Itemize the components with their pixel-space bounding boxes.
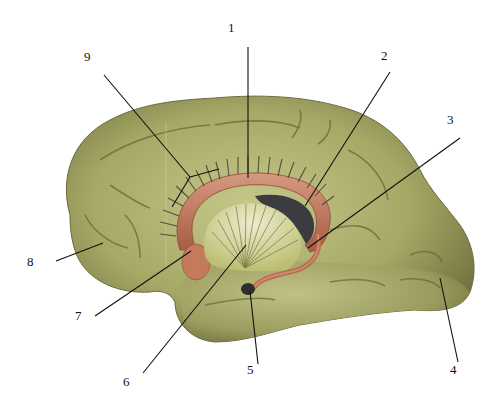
- label-2: 2: [381, 49, 388, 62]
- label-1: 1: [228, 21, 235, 34]
- label-9: 9: [84, 50, 91, 63]
- label-8: 8: [27, 255, 34, 268]
- label-6: 6: [123, 375, 130, 388]
- label-4: 4: [450, 363, 457, 376]
- label-3: 3: [447, 113, 454, 126]
- label-5: 5: [247, 363, 254, 376]
- brain-illustration: [0, 0, 498, 406]
- brain-diagram: 1 2 3 4 5 6 7 8 9: [0, 0, 498, 406]
- label-7: 7: [75, 309, 82, 322]
- mammillary-body: [241, 283, 255, 295]
